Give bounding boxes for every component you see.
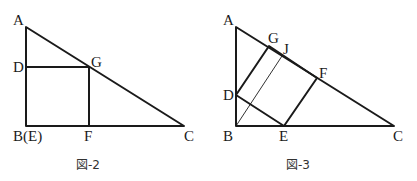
label-c: C — [393, 128, 403, 144]
figure-2: A D G B(E) F C 図-2 — [13, 12, 194, 172]
label-a: A — [13, 12, 24, 28]
label-j: J — [283, 41, 289, 57]
label-a: A — [223, 12, 234, 28]
geometry-diagram: A D G B(E) F C 図-2 A G J F D B E C 図-3 — [0, 0, 417, 181]
label-c: C — [184, 128, 194, 144]
label-f: F — [319, 65, 327, 81]
figure-3: A G J F D B E C 図-3 — [223, 12, 403, 172]
label-d: D — [13, 59, 24, 75]
label-g: G — [91, 54, 102, 70]
triangle-abc — [26, 27, 184, 126]
label-e: E — [279, 128, 288, 144]
square-defg — [26, 67, 89, 126]
label-b: B — [223, 128, 233, 144]
label-d: D — [223, 87, 234, 103]
label-f: F — [84, 128, 92, 144]
caption-figure-2: 図-2 — [76, 158, 100, 172]
square-defg — [236, 46, 317, 126]
line-bj — [236, 56, 282, 126]
label-g: G — [268, 30, 279, 46]
caption-figure-3: 図-3 — [286, 158, 310, 172]
label-b-e: B(E) — [13, 128, 42, 145]
